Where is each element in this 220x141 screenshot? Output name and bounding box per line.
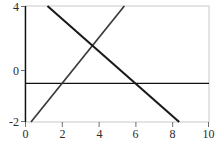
x-tick-label-8: 8 <box>160 128 185 140</box>
x-tick-label-0: 0 <box>13 128 38 140</box>
y-tick-label-minus2: -2 <box>0 116 19 128</box>
x-tick-label-4: 4 <box>87 128 112 140</box>
y-tick-label-4: 4 <box>0 1 19 13</box>
x-tick-label-10: 10 <box>196 128 220 140</box>
chart-container: 4 0 -2 0 2 4 6 8 10 <box>0 0 220 141</box>
plot-frame <box>25 6 209 122</box>
x-tick-label-2: 2 <box>50 128 75 140</box>
y-axis-ticks <box>21 7 25 122</box>
series-ascending-line <box>31 6 124 122</box>
chart-plot-area <box>0 0 220 141</box>
x-tick-label-6: 6 <box>123 128 148 140</box>
series-descending-line <box>47 6 179 122</box>
y-tick-label-0: 0 <box>0 65 19 77</box>
x-axis-ticks <box>26 122 209 127</box>
